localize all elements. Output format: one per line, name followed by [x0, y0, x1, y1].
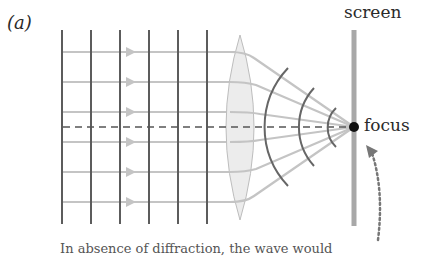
focus-dot	[349, 122, 359, 132]
caption-text: In absence of diffraction, the wave woul…	[60, 241, 332, 256]
panel-label: (a)	[7, 12, 32, 33]
dotted-arrow	[372, 153, 380, 240]
focus-label: focus	[364, 115, 410, 135]
converging-wavefronts	[265, 68, 336, 186]
screen-label: screen	[344, 2, 401, 22]
